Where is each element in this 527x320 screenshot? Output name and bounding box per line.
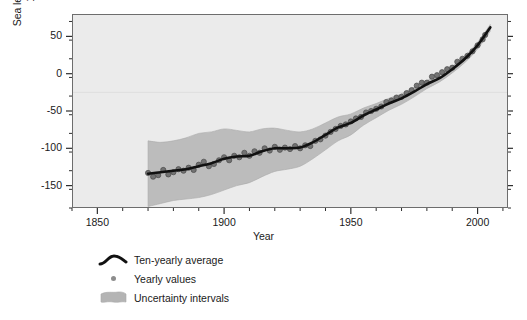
dot-icon bbox=[96, 270, 130, 288]
y-tick-label: -50 bbox=[47, 104, 62, 116]
data-point bbox=[414, 83, 419, 88]
y-tick-label: -150 bbox=[41, 179, 62, 191]
data-point bbox=[242, 150, 247, 155]
data-point bbox=[151, 174, 156, 179]
y-tick-label: 50 bbox=[50, 29, 62, 41]
legend-label: Uncertainty intervals bbox=[134, 292, 229, 304]
data-point bbox=[434, 73, 439, 78]
plot-background bbox=[72, 14, 508, 208]
x-tick-label: 1900 bbox=[204, 216, 244, 228]
data-point bbox=[419, 80, 424, 85]
chart-legend: Ten-yearly average Yearly values Uncerta… bbox=[96, 250, 356, 307]
data-point bbox=[429, 74, 434, 79]
x-tick-label: 1950 bbox=[331, 216, 371, 228]
band-patch-icon bbox=[96, 289, 130, 307]
line-curve-icon bbox=[96, 251, 130, 269]
y-tick-label: -100 bbox=[41, 141, 62, 153]
legend-label: Yearly values bbox=[134, 273, 196, 285]
x-tick-label: 2000 bbox=[458, 216, 498, 228]
legend-item-yearly-values: Yearly values bbox=[96, 269, 356, 288]
sea-level-chart: Sea level difference (mm) from 1961–1990… bbox=[0, 0, 527, 320]
legend-item-ten-yearly-average: Ten-yearly average bbox=[96, 250, 356, 269]
x-axis-label: Year bbox=[0, 230, 527, 242]
legend-item-uncertainty-intervals: Uncertainty intervals bbox=[96, 288, 356, 307]
x-tick-label: 1850 bbox=[77, 216, 117, 228]
y-tick-label: 0 bbox=[56, 67, 62, 79]
legend-label: Ten-yearly average bbox=[134, 254, 223, 266]
